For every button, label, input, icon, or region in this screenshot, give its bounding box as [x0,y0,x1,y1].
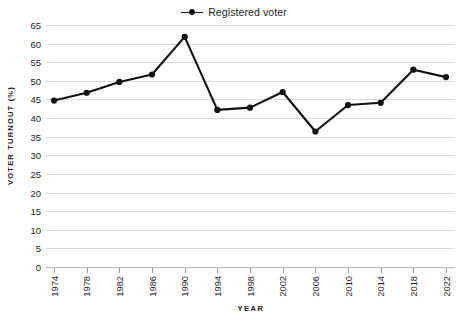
data-point [214,107,220,113]
plot-area: 05101520253035404550556065 [46,25,455,267]
x-axis-tick-label: 2002 [278,276,288,297]
legend-line-marker-icon [181,6,203,18]
data-point [280,89,286,95]
x-axis-tick [348,268,349,273]
x-axis-tick [152,268,153,273]
x-axis-tick-label: 1974 [50,276,60,297]
y-axis-tick-label: 15 [30,206,41,217]
x-axis-tick [250,268,251,273]
x-axis-tick [119,268,120,273]
x-axis-title: YEAR [46,304,456,313]
y-axis-tick-label: 35 [30,131,41,142]
y-axis-tick-label: 45 [30,94,41,105]
x-axis-tick [413,268,414,273]
x-axis-tick [54,268,55,273]
data-point [378,100,384,106]
data-point [345,102,351,108]
y-axis-tick-label: 5 [36,243,41,254]
data-point [443,74,449,80]
series-registered-voter [46,25,455,267]
x-axis-tick-label: 1978 [82,276,92,297]
x-axis-tick [315,268,316,273]
x-axis-tick-label: 1994 [213,276,223,297]
data-point [51,97,57,103]
x-axis-tick-label: 1998 [246,276,256,297]
legend-item-registered-voter: Registered voter [181,6,287,18]
x-axis-tick-label: 1986 [148,276,158,297]
y-axis-tick-label: 50 [30,75,41,86]
y-axis-title-text: VOTER TURNOUT (%) [6,86,15,185]
y-axis-tick-label: 40 [30,113,41,124]
data-point [149,71,155,77]
y-axis-tick-label: 55 [30,57,41,68]
x-axis-tick [283,268,284,273]
chart-figure: Registered voter VOTER TURNOUT (%) 05101… [0,0,468,323]
x-axis-tick-label: 2006 [311,276,321,297]
data-point [182,34,188,40]
y-axis-title: VOTER TURNOUT (%) [2,0,18,270]
x-axis-tick-label: 2022 [442,276,452,297]
x-axis-tick-label: 2014 [376,276,386,297]
y-axis-tick-label: 25 [30,168,41,179]
data-point [410,67,416,73]
x-axis-tick-label: 2010 [344,276,354,297]
x-axis-tick-label: 1990 [180,276,190,297]
chart-legend: Registered voter [0,2,468,22]
data-point [116,79,122,85]
series-line [54,37,446,132]
data-point [247,105,253,111]
y-axis-tick-label: 10 [30,224,41,235]
y-axis-tick-label: 20 [30,187,41,198]
data-point [312,128,318,134]
x-axis-tick [381,268,382,273]
y-axis-tick-label: 0 [36,262,41,273]
x-axis-tick [217,268,218,273]
data-point [84,90,90,96]
y-axis-tick-label: 65 [30,20,41,31]
x-axis-tick [446,268,447,273]
legend-item-label: Registered voter [208,6,287,18]
y-axis-tick-label: 30 [30,150,41,161]
y-axis-tick-label: 60 [30,38,41,49]
x-axis-tick-label: 1982 [115,276,125,297]
x-axis-tick [185,268,186,273]
x-axis-tick-label: 2018 [409,276,419,297]
x-axis-tick [87,268,88,273]
